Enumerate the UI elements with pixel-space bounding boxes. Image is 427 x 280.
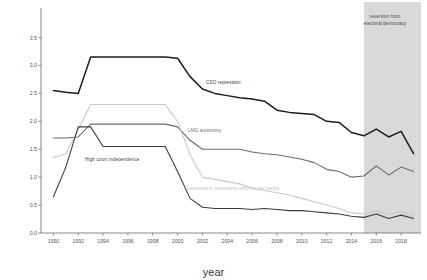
series-label-cso-repression: CSO repression <box>206 80 241 85</box>
series-line-0 <box>53 57 413 154</box>
series-line-1 <box>53 124 413 177</box>
x-tick-label: 1994 <box>97 238 109 244</box>
series-label-high-court-independence: High court independence <box>85 157 140 162</box>
x-tick-label: 2000 <box>172 238 184 244</box>
y-tick-label: 2.5 <box>19 90 37 96</box>
x-tick-label: 2014 <box>346 238 358 244</box>
y-tick-label: 1.5 <box>19 146 37 152</box>
x-tick-label: 1998 <box>147 238 159 244</box>
x-tick-label: 2008 <box>271 238 283 244</box>
y-tick-label: 3.0 <box>19 62 37 68</box>
y-tick-label: 0.0 <box>19 230 37 236</box>
reversion-annotation: reversion from electoral democracy <box>352 14 418 27</box>
y-tick-label: 1.0 <box>19 174 37 180</box>
x-tick-label: 2018 <box>395 238 407 244</box>
chart-container: reversion from electoral democracy CSO r… <box>0 0 427 280</box>
x-tick-label: 2012 <box>321 238 333 244</box>
x-tick-label: 1990 <box>48 238 60 244</box>
x-tick-label: 2010 <box>296 238 308 244</box>
x-tick-label: 2016 <box>371 238 383 244</box>
y-tick-label: 0.5 <box>19 202 37 208</box>
reversion-band-shading <box>364 2 421 233</box>
line-chart-svg <box>0 0 427 280</box>
x-tick-label: 2004 <box>221 238 233 244</box>
series-label-government-censorship: Government censorship effort in the medi… <box>186 186 279 191</box>
reversion-annotation-line2: electoral democracy <box>352 21 418 28</box>
x-axis-title: year <box>0 266 427 278</box>
x-tick-label: 1992 <box>72 238 84 244</box>
x-tick-label: 1996 <box>122 238 134 244</box>
series-label-lmg-autonomy: LMG autonomy <box>188 128 221 133</box>
reversion-band-rect <box>364 2 421 233</box>
y-tick-label: 2.0 <box>19 118 37 124</box>
y-tick-label: 3.5 <box>19 35 37 41</box>
reversion-annotation-line1: reversion from <box>352 14 418 21</box>
axis-tick-marks <box>39 38 402 236</box>
series-line-3 <box>53 127 413 219</box>
x-tick-label: 2006 <box>246 238 258 244</box>
x-tick-label: 2002 <box>197 238 209 244</box>
